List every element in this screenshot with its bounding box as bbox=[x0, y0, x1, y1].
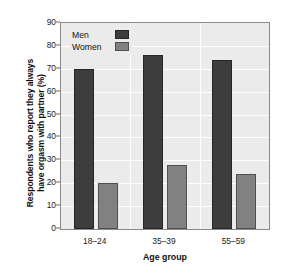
y-tick-mark bbox=[56, 113, 60, 114]
y-tick-label: 80 bbox=[34, 40, 56, 50]
y-tick-label: 50 bbox=[34, 109, 56, 119]
y-tick-label: 0 bbox=[34, 223, 56, 233]
y-tick-mark bbox=[56, 159, 60, 160]
y-tick-mark bbox=[56, 67, 60, 68]
bar-men-18-24 bbox=[74, 69, 94, 229]
group-separator bbox=[200, 23, 201, 229]
y-tick-mark bbox=[56, 90, 60, 91]
legend-item-men: Men bbox=[72, 29, 129, 40]
y-tick-mark bbox=[56, 182, 60, 183]
bar-chart-figure: Respondents who report they always have … bbox=[0, 0, 292, 277]
y-tick-label: 10 bbox=[34, 200, 56, 210]
bar-women-35-39 bbox=[167, 165, 187, 229]
bar-men-55-59 bbox=[212, 60, 232, 229]
legend: Men Women bbox=[70, 27, 132, 54]
y-tick-label: 90 bbox=[34, 17, 56, 27]
x-axis-tick-labels: 18–2435–3955–59 bbox=[60, 236, 270, 250]
y-tick-label: 40 bbox=[34, 131, 56, 141]
legend-item-women: Women bbox=[72, 41, 129, 52]
y-tick-label: 30 bbox=[34, 154, 56, 164]
y-tick-mark bbox=[56, 205, 60, 206]
x-tick-label: 35–39 bbox=[152, 236, 175, 246]
y-tick-label: 70 bbox=[34, 63, 56, 73]
y-tick-mark bbox=[56, 228, 60, 229]
y-tick-mark bbox=[56, 44, 60, 45]
bar-men-35-39 bbox=[143, 55, 163, 229]
y-tick-mark bbox=[56, 136, 60, 137]
y-tick-label: 60 bbox=[34, 86, 56, 96]
legend-label-men: Men bbox=[72, 30, 110, 40]
x-tick-label: 55–59 bbox=[222, 236, 245, 246]
y-tick-mark bbox=[56, 22, 60, 23]
plot-area: Men Women bbox=[60, 22, 270, 230]
x-axis-title: Age group bbox=[60, 252, 270, 262]
y-axis-tick-labels: 0102030405060708090 bbox=[32, 0, 56, 277]
y-tick-label: 20 bbox=[34, 177, 56, 187]
bar-women-55-59 bbox=[236, 174, 256, 229]
legend-swatch-women-icon bbox=[115, 42, 129, 51]
x-tick-label: 18–24 bbox=[83, 236, 106, 246]
legend-swatch-men-icon bbox=[115, 30, 129, 39]
bar-women-18-24 bbox=[98, 183, 118, 229]
legend-label-women: Women bbox=[72, 42, 110, 52]
